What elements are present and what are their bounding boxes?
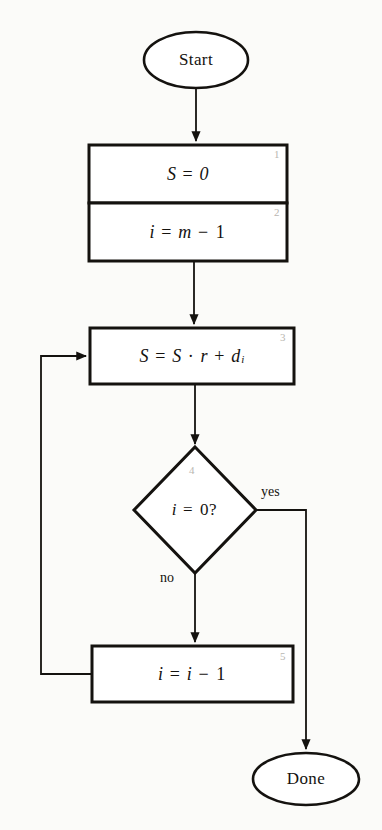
flowchart-canvas: [0, 0, 382, 830]
node-start-shape: [144, 32, 248, 88]
node-accumulate-shape: [90, 328, 294, 384]
node-decrement-shape: [92, 646, 293, 702]
node-init-s-shape: [89, 145, 287, 203]
node-init-i-shape: [89, 203, 287, 261]
edge-decrement-to-accumulate-loop: [41, 356, 92, 674]
edge-test-i-yes-to-done: [256, 510, 306, 749]
node-done-shape: [253, 753, 359, 805]
node-test-i-shape: [134, 447, 256, 573]
flowchart-page: Start S = 0 i = m − 1 S = S · r + di i =…: [0, 0, 382, 830]
